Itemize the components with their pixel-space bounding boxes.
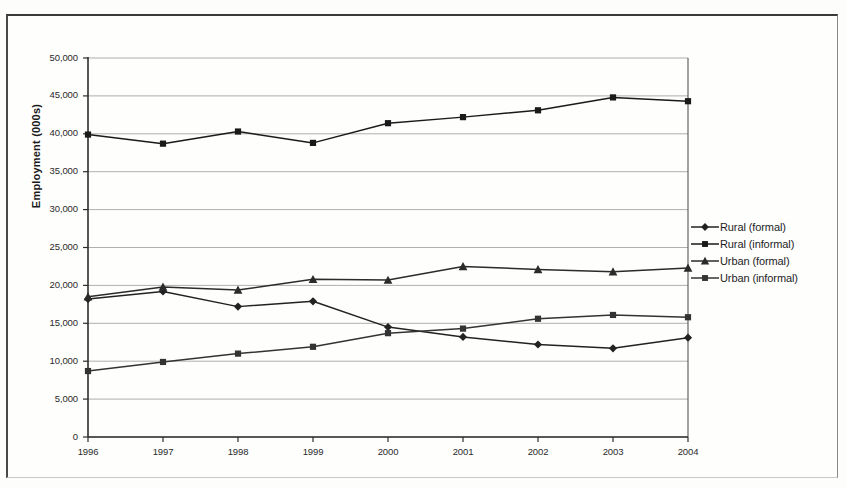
y-axis-tick-label: 30,000 (24, 203, 78, 214)
x-axis-tick-label: 1999 (290, 446, 336, 457)
legend-marker-triangle-icon (690, 254, 720, 268)
data-point-marker (160, 141, 166, 147)
data-point-marker (384, 323, 392, 331)
legend-item: Rural (informal) (690, 235, 798, 252)
y-axis-tick-label: 35,000 (24, 165, 78, 176)
data-point-marker (702, 241, 708, 247)
data-point-marker (310, 344, 316, 350)
data-point-marker (85, 131, 91, 137)
data-point-marker (702, 275, 708, 281)
chart-series-rural-formal (84, 287, 692, 352)
data-point-marker (609, 344, 617, 352)
x-axis-tick-label: 2004 (665, 446, 711, 457)
y-axis-tick-label: 25,000 (24, 241, 78, 252)
x-axis-tick-label: 2001 (440, 446, 486, 457)
legend-item: Urban (formal) (690, 252, 798, 269)
data-point-marker (535, 316, 541, 322)
data-point-marker (685, 314, 691, 320)
data-point-marker (535, 107, 541, 113)
legend-item: Urban (informal) (690, 269, 798, 286)
x-axis-tick-label: 1996 (65, 446, 111, 457)
data-point-marker (385, 120, 391, 126)
x-axis-tick-label: 2003 (590, 446, 636, 457)
data-point-marker (160, 359, 166, 365)
data-point-marker (459, 333, 467, 341)
x-axis-tick-label: 2000 (365, 446, 411, 457)
data-point-marker (610, 94, 616, 100)
x-axis-tick-label: 2002 (515, 446, 561, 457)
y-axis-tick-label: 15,000 (24, 317, 78, 328)
legend-item-label: Urban (informal) (720, 272, 798, 284)
chart-series-rural-informal (85, 94, 691, 146)
legend-marker-square-icon (690, 237, 720, 251)
data-point-marker (701, 223, 709, 231)
y-axis-tick-label: 40,000 (24, 127, 78, 138)
data-point-marker (460, 114, 466, 120)
data-point-marker (235, 351, 241, 357)
data-point-marker (684, 334, 692, 342)
legend-item-label: Urban (formal) (720, 255, 790, 267)
chart-legend: Rural (formal)Rural (informal)Urban (for… (690, 218, 798, 286)
y-axis-tick-label: 5,000 (24, 393, 78, 404)
legend-item: Rural (formal) (690, 218, 798, 235)
data-point-marker (685, 98, 691, 104)
scanned-figure-page: Employment (000s) Rural (formal)Rural (i… (0, 0, 846, 488)
data-point-marker (534, 340, 542, 348)
chart-series-urban-informal (85, 312, 691, 374)
y-axis-tick-label: 10,000 (24, 355, 78, 366)
data-point-marker (310, 140, 316, 146)
data-point-marker (610, 312, 616, 318)
data-point-marker (234, 303, 242, 311)
legend-item-label: Rural (formal) (720, 221, 786, 233)
data-point-marker (460, 326, 466, 332)
data-point-marker (85, 368, 91, 374)
data-point-marker (385, 330, 391, 336)
legend-item-label: Rural (informal) (720, 238, 794, 250)
x-axis-tick-label: 1998 (215, 446, 261, 457)
data-point-marker (309, 297, 317, 305)
y-axis-tick-label: 50,000 (24, 52, 78, 63)
x-axis-tick-label: 1997 (140, 446, 186, 457)
y-axis-tick-label: 45,000 (24, 89, 78, 100)
y-axis-tick-label: 0 (24, 431, 78, 442)
series-line (88, 291, 688, 348)
legend-marker-square-icon (690, 271, 720, 285)
legend-marker-diamond-icon (690, 220, 720, 234)
data-point-marker (235, 128, 241, 134)
chart-figure: Employment (000s) Rural (formal)Rural (i… (0, 0, 846, 488)
chart-series-urban-formal (84, 262, 693, 300)
y-axis-tick-label: 20,000 (24, 279, 78, 290)
